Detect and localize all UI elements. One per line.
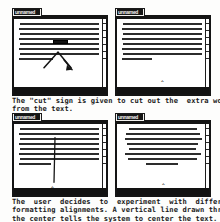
- caption-cut-gesture: The "cut" sign is given to cut out the e…: [12, 97, 212, 114]
- vertical-scrollbar[interactable]: [205, 19, 209, 87]
- document-frame[interactable]: ‸: [115, 120, 211, 197]
- document-frame[interactable]: ‸: [115, 15, 211, 96]
- window-after-center[interactable]: unnamed: [115, 113, 211, 197]
- caption-line: the center tells the system to center th…: [12, 215, 212, 222]
- menu-strip: [14, 122, 106, 124]
- status-strip: [14, 87, 106, 94]
- document-frame[interactable]: ‸: [12, 120, 108, 197]
- status-strip: [14, 188, 106, 195]
- titlebar-label: unnamed: [117, 9, 143, 15]
- document-frame[interactable]: [12, 15, 108, 96]
- document-text-justified[interactable]: [17, 127, 99, 169]
- titlebar-label: unnamed: [14, 114, 40, 120]
- stylus-cursor-icon: ‸: [162, 177, 165, 185]
- window-before-center[interactable]: unnamed: [12, 113, 108, 197]
- status-strip: [117, 87, 209, 94]
- vertical-scrollbar[interactable]: [205, 124, 209, 188]
- titlebar-label: unnamed: [14, 9, 40, 15]
- menu-strip: [117, 17, 209, 19]
- stylus-cursor-icon: ‸: [161, 74, 164, 82]
- titlebar[interactable]: unnamed: [115, 8, 145, 16]
- titlebar[interactable]: unnamed: [12, 113, 42, 121]
- vertical-scrollbar[interactable]: [102, 124, 106, 188]
- caption-center-gesture: The user decides to experiment with diff…: [12, 198, 212, 222]
- window-before-cut[interactable]: unnamed: [12, 8, 108, 96]
- menu-strip: [14, 17, 106, 19]
- titlebar-label: unnamed: [117, 114, 143, 120]
- stylus-cursor-icon: ‸: [51, 180, 54, 188]
- document-text-centered[interactable]: [120, 127, 202, 169]
- document-text-justified[interactable]: [120, 22, 202, 64]
- figure-center-gesture: unnamed: [0, 113, 220, 197]
- status-strip: [117, 188, 209, 195]
- scanned-figure-page: unnamed: [0, 0, 220, 222]
- vertical-scrollbar[interactable]: [102, 19, 106, 87]
- menu-strip: [117, 122, 209, 124]
- window-after-cut[interactable]: unnamed: [115, 8, 211, 96]
- titlebar[interactable]: unnamed: [12, 8, 42, 16]
- titlebar[interactable]: unnamed: [115, 113, 145, 121]
- figure-cut-gesture: unnamed: [0, 8, 220, 96]
- highlighted-word[interactable]: [53, 40, 68, 44]
